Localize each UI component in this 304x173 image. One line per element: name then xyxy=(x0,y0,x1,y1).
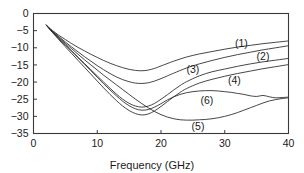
chart-figure: 010203040 0−5−10−15−20−25−30−35 (1)(2)(3… xyxy=(0,0,304,173)
y-tick-label: −15 xyxy=(11,59,29,71)
y-tick-label: −5 xyxy=(17,24,29,36)
plot-background xyxy=(0,0,304,173)
y-tick-label: −30 xyxy=(11,110,29,122)
y-tick-label: −10 xyxy=(11,41,29,53)
x-tick-label: 20 xyxy=(155,137,167,149)
x-axis-title: Frequency (GHz) xyxy=(110,159,194,171)
x-tick-label: 10 xyxy=(91,137,103,149)
curve-label-2: (2) xyxy=(257,50,270,62)
frequency-response-chart: 010203040 0−5−10−15−20−25−30−35 (1)(2)(3… xyxy=(0,0,304,173)
x-tick-label: 40 xyxy=(283,137,295,149)
curve-label-1: (1) xyxy=(235,37,248,49)
curve-label-6: (6) xyxy=(200,94,213,106)
curve-label-4: (4) xyxy=(228,74,241,86)
x-tick-label: 30 xyxy=(219,137,231,149)
y-tick-label: −35 xyxy=(11,127,29,139)
curve-label-3: (3) xyxy=(186,63,199,75)
x-tick-label: 0 xyxy=(31,137,37,149)
y-tick-label: 0 xyxy=(23,7,29,19)
curve-label-5: (5) xyxy=(192,120,205,132)
y-tick-label: −25 xyxy=(11,93,29,105)
y-tick-label: −20 xyxy=(11,76,29,88)
